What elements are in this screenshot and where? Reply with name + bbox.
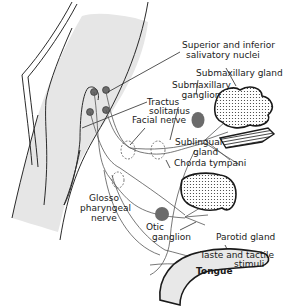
label-submaxillary-ganglion-1: Submaxillary bbox=[172, 80, 230, 90]
label-salivatory-nuclei-2: salivatory nuclei bbox=[186, 50, 260, 60]
label-taste-2: stimuli bbox=[234, 259, 264, 269]
label-submaxillary-gland: Submaxillary gland bbox=[196, 68, 283, 78]
label-glosso-2: pharyngeal bbox=[80, 203, 128, 213]
otic-ganglion bbox=[155, 207, 169, 221]
label-sublingual-1: Sublingual bbox=[175, 137, 222, 147]
parotid-gland bbox=[181, 173, 236, 210]
submaxillary-ganglion bbox=[192, 112, 205, 128]
label-parotid-gland: Parotid gland bbox=[216, 232, 275, 242]
label-salivatory-nuclei-1: Superior and inferior bbox=[182, 40, 275, 50]
label-sublingual-2: gland bbox=[193, 147, 218, 157]
label-facial-nerve: Facial nerve bbox=[132, 115, 186, 125]
sublingual-gland bbox=[220, 128, 274, 148]
label-glosso-1: Glosso bbox=[80, 193, 128, 203]
label-tongue: Tongue bbox=[196, 266, 233, 276]
label-otic-2: ganglion bbox=[152, 232, 191, 242]
label-chorda-tympani: Chorda tympani bbox=[174, 158, 246, 168]
label-submaxillary-ganglion-2: ganglion bbox=[172, 90, 230, 100]
label-glosso-3: nerve bbox=[80, 213, 128, 223]
label-otic-1: Otic bbox=[146, 222, 164, 232]
